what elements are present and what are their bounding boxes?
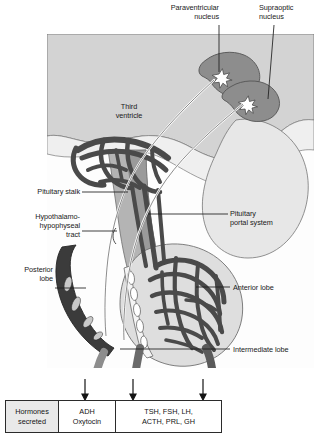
label-intermediate-lobe: Intermediate lobe	[233, 345, 313, 354]
label-anterior-lobe: Anterior lobe	[233, 283, 311, 292]
secretion-arrows	[82, 379, 206, 400]
label-pituitary-portal-system: Pituitary portal system	[230, 209, 310, 227]
label-posterior-lobe: Posterior lobe	[5, 265, 53, 283]
label-pituitary-stalk: Pituitary stalk	[13, 187, 80, 196]
table-cell-posterior-hormones: ADH Oxytocin	[58, 400, 116, 433]
label-supraoptic-nucleus: Supraoptic nucleus	[259, 3, 314, 21]
label-hypothalamo-hypophyseal-tract: Hypothalamo- hypophyseal tract	[5, 212, 80, 240]
label-third-ventricle: Third ventricle	[106, 102, 152, 120]
table-cell-anterior-hormones: TSH, FSH, LH, ACTH, PRL, GH	[115, 400, 222, 433]
label-paraventricular-nucleus: Paraventricular nucleus	[146, 3, 219, 21]
table-row-header-hormones-secreted: Hormones secreted	[5, 400, 59, 433]
illustration-panel	[47, 34, 314, 376]
